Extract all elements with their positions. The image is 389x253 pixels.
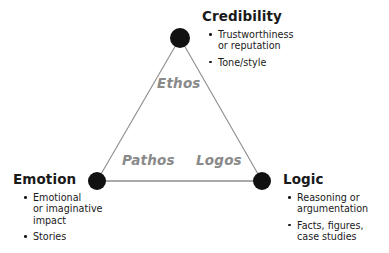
bullet-item: Trustworthinessor reputation (209, 29, 293, 52)
bullet-dot-icon (288, 224, 291, 227)
rhetorical-triangle-diagram: Credibility Emotion Logic Trustworthines… (0, 0, 389, 253)
appeal-label-pathos: Pathos (122, 152, 175, 168)
appeal-label-logos: Logos (196, 152, 242, 168)
bullet-item: Stories (24, 231, 102, 242)
bullet-line: or imaginative (33, 203, 102, 214)
node-credibility (170, 28, 190, 48)
bullet-line: Facts, figures, (297, 220, 368, 231)
node-logic (253, 172, 271, 190)
bullet-item: Tone/style (209, 57, 293, 68)
bullet-item: Reasoning orargumentation (288, 192, 368, 215)
bullet-line: Emotional (33, 192, 102, 203)
heading-logic: Logic (283, 171, 324, 187)
bullets-emotion: Emotionalor imaginativeimpactStories (24, 192, 102, 243)
bullet-line: Tone/style (218, 57, 293, 68)
bullet-item: Facts, figures,case studies (288, 220, 368, 243)
bullet-line: Reasoning or (297, 192, 368, 203)
bullets-logic: Reasoning orargumentationFacts, figures,… (288, 192, 368, 243)
node-emotion (88, 172, 106, 190)
bullet-line: case studies (297, 231, 368, 242)
bullet-line: or reputation (218, 40, 293, 51)
heading-credibility: Credibility (202, 8, 282, 24)
bullet-dot-icon (209, 33, 212, 36)
bullet-dot-icon (288, 196, 291, 199)
heading-emotion: Emotion (13, 171, 76, 187)
bullet-item: Emotionalor imaginativeimpact (24, 192, 102, 226)
appeal-label-ethos: Ethos (157, 75, 201, 91)
bullets-credibility: Trustworthinessor reputationTone/style (209, 29, 293, 68)
bullet-line: impact (33, 215, 102, 226)
bullet-dot-icon (24, 196, 27, 199)
bullet-line: Trustworthiness (218, 29, 293, 40)
bullet-dot-icon (209, 61, 212, 64)
bullet-line: Stories (33, 231, 102, 242)
bullet-dot-icon (24, 235, 27, 238)
bullet-line: argumentation (297, 203, 368, 214)
